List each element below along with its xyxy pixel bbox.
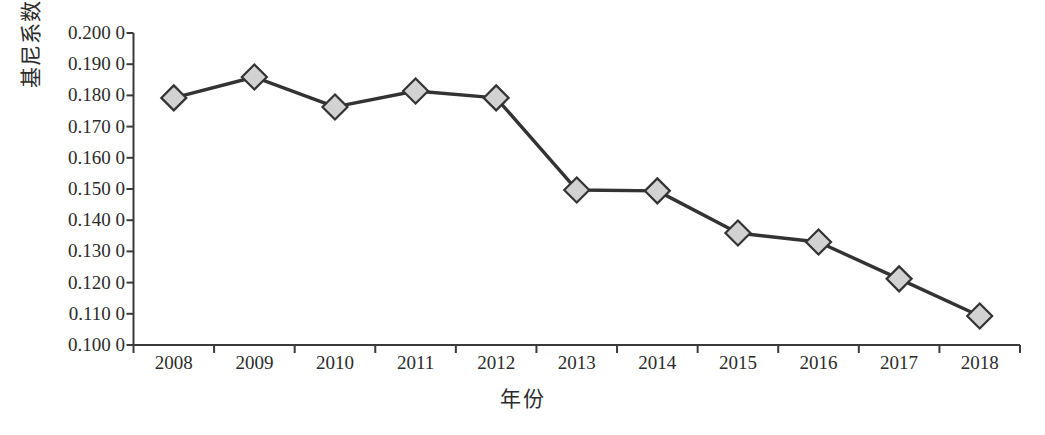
x-axis-tick-label: 2018 bbox=[935, 352, 1025, 374]
x-axis-tick-label: 2014 bbox=[612, 352, 702, 374]
x-axis-tick-label: 2012 bbox=[451, 352, 541, 374]
data-point-marker bbox=[645, 178, 670, 203]
data-point-marker bbox=[403, 79, 428, 104]
x-axis-tick-label: 2015 bbox=[693, 352, 783, 374]
data-point-markers bbox=[161, 64, 992, 328]
y-axis-ticks bbox=[127, 33, 134, 345]
data-point-marker bbox=[322, 94, 347, 119]
x-axis-tick-label: 2009 bbox=[209, 352, 299, 374]
x-axis-tick-label: 2011 bbox=[371, 352, 461, 374]
data-point-marker bbox=[161, 85, 186, 110]
figure-caption bbox=[0, 424, 1045, 435]
data-point-marker bbox=[242, 64, 267, 89]
chart-figure: 基尼系数 0.200 00.190 00.180 00.170 00.160 0… bbox=[0, 0, 1045, 435]
x-axis-tick-label: 2016 bbox=[774, 352, 864, 374]
data-point-marker bbox=[967, 303, 992, 328]
x-axis-tick-label: 2008 bbox=[129, 352, 219, 374]
x-axis-tick-label: 2010 bbox=[290, 352, 380, 374]
x-axis-title: 年份 bbox=[0, 382, 1045, 412]
data-point-marker bbox=[887, 266, 912, 291]
data-point-marker bbox=[725, 220, 750, 245]
x-axis-tick-label: 2013 bbox=[532, 352, 622, 374]
data-point-marker bbox=[806, 230, 831, 255]
x-axis-tick-label: 2017 bbox=[854, 352, 944, 374]
